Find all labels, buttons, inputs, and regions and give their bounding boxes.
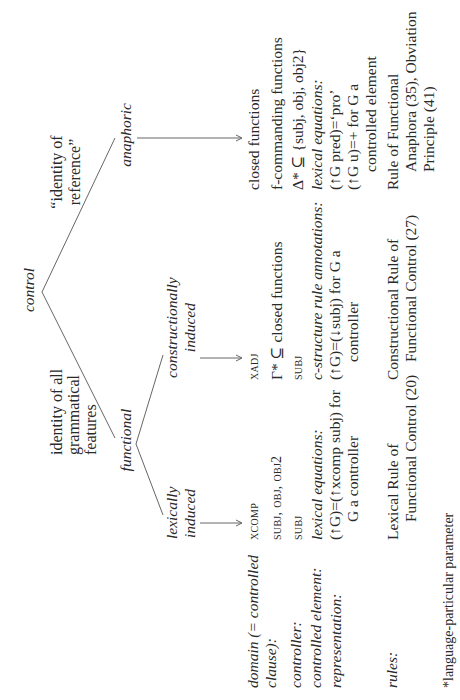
- gloss-identity-of-reference: “identity of reference”: [48, 135, 84, 208]
- gloss-line: identity of all: [48, 369, 65, 455]
- gloss-line: “identity of: [48, 135, 66, 208]
- representation-line: controller: [344, 201, 362, 380]
- arrow-head-lexical-b: [236, 520, 242, 523]
- anaphoric-representation: lexical equations: (↑G pred)=‘pro’ (↑G u…: [308, 56, 380, 190]
- representation-line: (↑G u)=+ for G a: [344, 56, 362, 190]
- node-anaphoric: anaphoric: [117, 103, 135, 167]
- row-label-line: clause):: [262, 555, 280, 688]
- rules-line: Rule of Functional: [384, 11, 402, 190]
- anaphoric-rules: Rule of Functional Anaphora (35), Obviat…: [384, 11, 438, 190]
- branch-line-functional-lexical: [136, 444, 163, 515]
- node-lexically-induced: lexically induced: [163, 487, 199, 540]
- row-label-rules: rules:: [383, 652, 401, 688]
- gloss-line: reference”: [66, 135, 84, 208]
- row-label-domain: domain (= controlled clause):: [244, 555, 280, 688]
- rules-line: Principle (41): [420, 11, 438, 190]
- constructional-controlled-element-value: subj: [289, 355, 307, 380]
- rules-line: Anaphora (35), Obviation: [402, 11, 420, 190]
- representation-line: (↑G)=(↑xcomp subj) for: [326, 390, 344, 540]
- lexical-controller-value: subj, obj, obj2: [268, 456, 286, 540]
- representation-line: (↑G pred)=‘pro’: [326, 56, 344, 190]
- gloss-line: grammatical: [65, 369, 82, 455]
- representation-line: G a controller: [344, 390, 362, 540]
- constructional-domain-value: xadj: [245, 353, 263, 380]
- node-line: induced: [181, 277, 199, 378]
- anaphoric-controller-value: f-commanding functions: [268, 37, 286, 190]
- node-line: lexically: [163, 487, 181, 540]
- branch-line-functional-constructional: [136, 355, 163, 444]
- representation-heading: lexical equations:: [308, 56, 326, 190]
- anaphoric-domain-value: closed functions: [245, 89, 263, 190]
- constructional-representation: c-structure rule annotations: (↑G)=(↓sub…: [308, 201, 362, 380]
- rules-line: Functional Control (27): [402, 215, 420, 380]
- rules-line: Functional Control (20): [402, 375, 420, 540]
- footnote: *language-particular parameter: [440, 513, 458, 688]
- gloss-line: features: [82, 369, 99, 455]
- node-line: constructionally: [163, 277, 181, 378]
- rules-line: Lexical Rule of: [384, 375, 402, 540]
- lexical-domain-value: xcomp: [245, 503, 263, 540]
- representation-line: controlled element: [362, 56, 380, 190]
- lexical-controlled-element-value: subj: [289, 515, 307, 540]
- control-typology-figure: control “identity of reference” anaphori…: [0, 0, 460, 700]
- node-constructionally-induced: constructionally induced: [163, 277, 199, 378]
- lexical-representation: lexical equations: (↑G)=(↑xcomp subj) fo…: [308, 390, 362, 540]
- rules-line: Constructional Rule of: [384, 215, 402, 380]
- lexical-rules: Lexical Rule of Functional Control (20): [384, 375, 420, 540]
- constructional-controller-value: Γ* ⊆ closed functions: [268, 241, 286, 380]
- row-label-controlled-element: controlled element:: [307, 568, 325, 688]
- node-functional: functional: [117, 409, 135, 472]
- gloss-identity-of-all-grammatical-features: identity of all grammatical features: [48, 369, 99, 455]
- node-control: control: [20, 268, 38, 312]
- row-label-line: domain (= controlled: [244, 555, 262, 688]
- arrow-head-lexical-a: [236, 523, 242, 526]
- arrow-head-constructional-b: [236, 355, 242, 358]
- node-line: induced: [181, 487, 199, 540]
- row-label-representation: representation:: [327, 594, 345, 688]
- row-label-controller: controller:: [287, 621, 305, 688]
- representation-heading: c-structure rule annotations:: [308, 201, 326, 380]
- representation-line: (↑G)=(↓subj) for G a: [326, 201, 344, 380]
- anaphoric-controlled-element-value: Δ* ⊆ {subj, obj, obj2}: [289, 48, 307, 190]
- representation-heading: lexical equations:: [308, 390, 326, 540]
- constructional-rules: Constructional Rule of Functional Contro…: [384, 215, 420, 380]
